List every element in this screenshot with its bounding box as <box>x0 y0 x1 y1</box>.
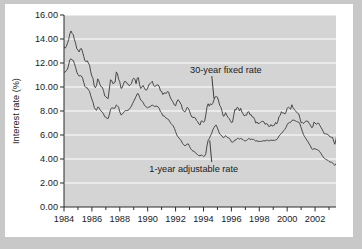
chart-canvas: 0.002.004.006.008.0010.0012.0014.0016.00… <box>5 4 353 237</box>
series-annotation-label: 30-year fixed rate <box>190 65 262 75</box>
x-tick-label: 2000 <box>277 214 297 224</box>
y-tick-label: 14.00 <box>35 34 58 44</box>
interest-rate-line-chart: 0.002.004.006.008.0010.0012.0014.0016.00… <box>5 4 353 237</box>
y-axis-title: Interest rate (%) <box>11 78 21 144</box>
x-tick-label: 1984 <box>54 214 74 224</box>
x-tick-label: 1996 <box>221 214 241 224</box>
y-tick-label: 6.00 <box>40 130 58 140</box>
x-tick-label: 1988 <box>110 214 130 224</box>
x-tick-label: 1990 <box>137 214 157 224</box>
y-tick-label: 16.00 <box>35 10 58 20</box>
x-tick-label: 1998 <box>249 214 269 224</box>
y-tick-label: 0.00 <box>40 202 58 212</box>
x-tick-label: 2002 <box>305 214 325 224</box>
y-axis: 0.002.004.006.008.0010.0012.0014.0016.00 <box>35 10 64 212</box>
y-tick-label: 2.00 <box>40 178 58 188</box>
chart-figure: 0.002.004.006.008.0010.0012.0014.0016.00… <box>5 4 353 237</box>
y-tick-label: 8.00 <box>40 106 58 116</box>
x-tick-label: 1994 <box>193 214 213 224</box>
y-tick-label: 4.00 <box>40 154 58 164</box>
x-tick-label: 1986 <box>82 214 102 224</box>
x-axis: 1984198619881990199219941996199820002002 <box>54 207 329 224</box>
series-annotation-label: 1-year adjustable rate <box>149 164 238 174</box>
y-tick-label: 10.00 <box>35 82 58 92</box>
x-tick-label: 1992 <box>165 214 185 224</box>
y-tick-label: 12.00 <box>35 58 58 68</box>
